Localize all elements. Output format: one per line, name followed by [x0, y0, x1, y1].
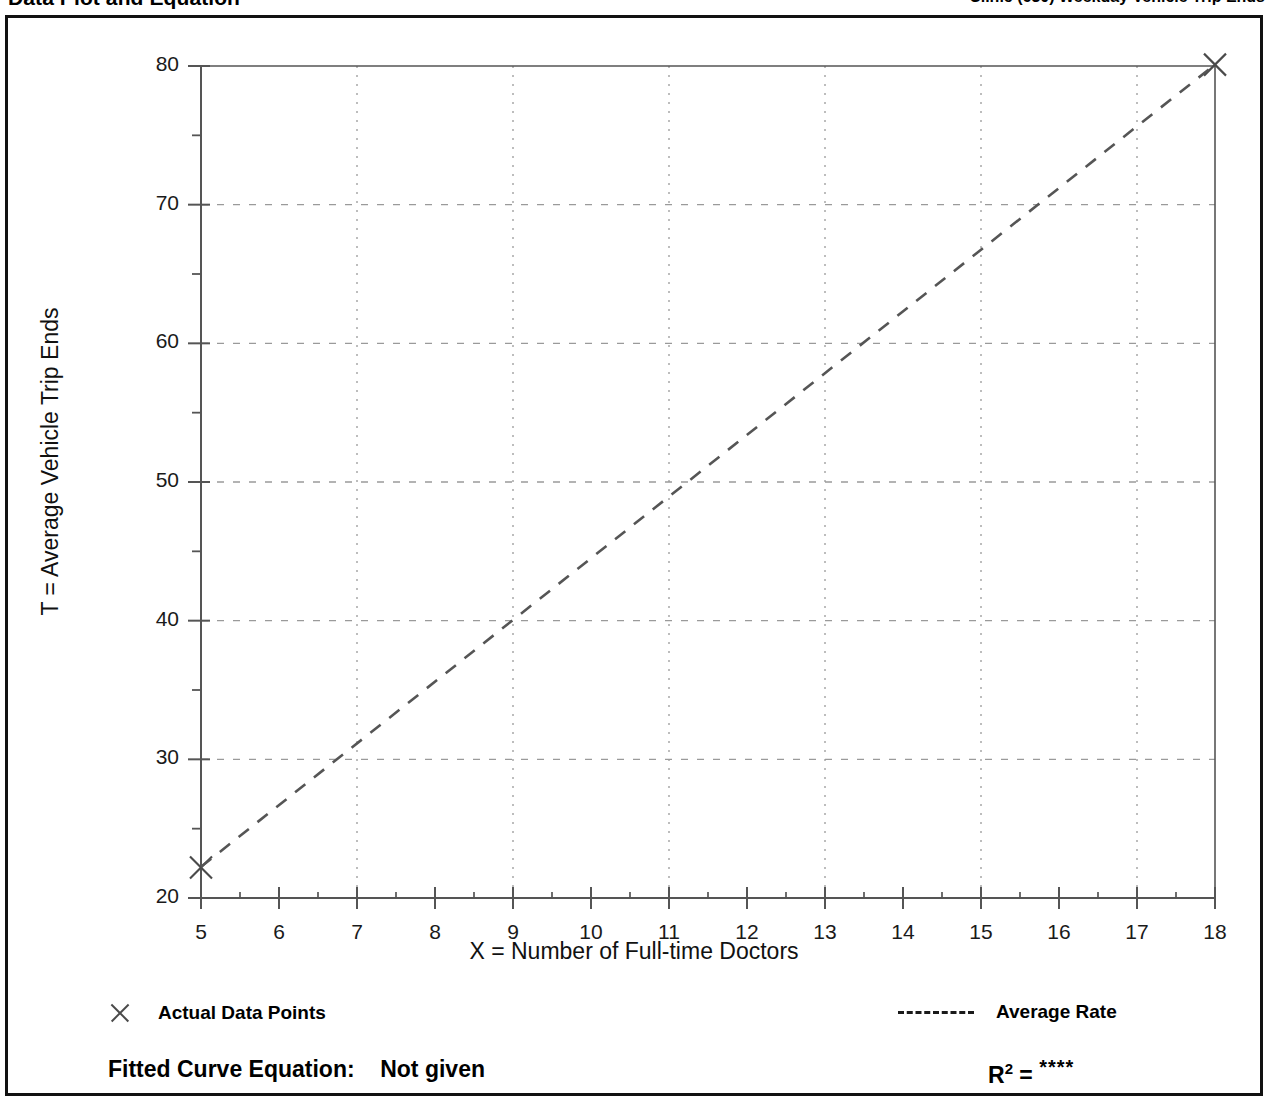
- fitted-curve-equation-label: Fitted Curve Equation:: [108, 1056, 355, 1082]
- legend-actual-data-points-label: Actual Data Points: [158, 1002, 326, 1024]
- y-axis-tick-label: 60: [129, 329, 179, 353]
- dashed-line-icon: [898, 1011, 974, 1014]
- r-squared-value: R2 = ****: [988, 1056, 1074, 1089]
- legend-actual-data-points: Actual Data Points: [108, 1001, 326, 1025]
- fitted-curve-equation: Fitted Curve Equation: Not given: [108, 1056, 485, 1083]
- legend-average-rate-label: Average Rate: [996, 1001, 1117, 1023]
- y-axis-tick-label: 70: [129, 191, 179, 215]
- y-axis-tick-label: 20: [129, 884, 179, 908]
- y-axis-tick-label: 30: [129, 745, 179, 769]
- r-squared-stars: ****: [1039, 1056, 1074, 1078]
- x-marker-icon: [108, 1001, 132, 1025]
- r-squared-exponent: 2: [1005, 1060, 1013, 1077]
- figure-frame: 2030405060708056789101112131415161718 T …: [5, 15, 1263, 1096]
- fitted-curve-equation-value: Not given: [380, 1056, 485, 1082]
- legend-average-rate: Average Rate: [898, 1001, 1117, 1023]
- r-squared-equals: =: [1019, 1062, 1032, 1088]
- y-axis-tick-label: 50: [129, 468, 179, 492]
- y-axis-tick-label: 80: [129, 52, 179, 76]
- y-axis-tick-label: 40: [129, 607, 179, 631]
- page-header-title: Data Plot and Equation: [8, 0, 240, 10]
- page-header: Data Plot and Equation Clinic (630) Week…: [0, 0, 1275, 12]
- page-header-subtitle: Clinic (630) Weekday Vehicle Trip Ends: [969, 0, 1265, 6]
- y-axis-title: T = Average Vehicle Trip Ends: [37, 252, 64, 672]
- x-axis-title: X = Number of Full-time Doctors: [8, 938, 1260, 965]
- r-squared-label: R: [988, 1062, 1005, 1088]
